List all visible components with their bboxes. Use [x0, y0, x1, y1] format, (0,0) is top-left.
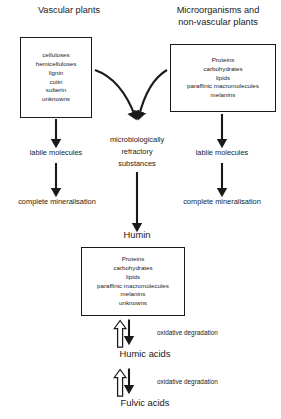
label-humic-acids: Humic acids: [75, 348, 215, 360]
box-item: celluloses: [42, 51, 69, 60]
label-fulvic-acids: Fulvic acids: [75, 397, 215, 409]
box-item: lipids: [126, 273, 140, 282]
label-complete-mineralisation-left: complete mineralisation: [0, 197, 116, 206]
heading-vascular-plants: Vascular plants: [14, 5, 124, 16]
heading-microorganisms-line1: Microorganisms and: [158, 5, 278, 16]
heading-microorganisms-line2: non-vascular plants: [158, 17, 278, 28]
box-item: carbohydrates: [113, 264, 152, 273]
box-microorganisms-constituents: Proteins carbohydrates lipids paraffinic…: [170, 44, 276, 112]
box-item: paraffinic macromolecules: [187, 82, 259, 91]
box-item: cutin: [49, 78, 62, 87]
curved-arrow-vascular-to-refractory: [95, 70, 135, 116]
box-humin-constituents: Proteins carbohydrates lipids paraffinic…: [81, 247, 185, 316]
box-item: melanins: [211, 91, 236, 100]
box-vascular-plants-constituents: celluloses hemicelluloses lignin cutin s…: [20, 37, 92, 118]
hollow-up-arrow-fulvic-to-humic: [114, 370, 126, 397]
humus-formation-diagram: Vascular plants Microorganisms and non-v…: [0, 0, 281, 419]
box-item: unknowns: [119, 299, 147, 308]
hollow-up-arrow-humic-to-humin: [114, 321, 126, 348]
box-item: suberin: [46, 86, 66, 95]
box-item: Proteins: [122, 255, 145, 264]
curved-arrow-microorganisms-to-refractory: [139, 70, 167, 116]
label-humin: Humin: [97, 229, 177, 241]
label-refractory-line2: refractory: [94, 147, 180, 156]
box-item: lignin: [49, 69, 63, 78]
box-item: paraffinic macromolecules: [97, 282, 169, 291]
label-complete-mineralisation-right: complete mineralisation: [163, 197, 281, 206]
box-item: hemicelluloses: [36, 60, 77, 69]
box-item: melanins: [121, 290, 146, 299]
label-labile-molecules-right: labile molecules: [172, 148, 272, 157]
label-refractory-line3: substances: [94, 159, 180, 168]
box-item: carbohydrates: [203, 65, 242, 74]
label-labile-molecules-left: labile molecules: [6, 148, 106, 157]
label-oxidative-degradation-upper: oxidative degradation: [157, 329, 281, 337]
box-item: lipids: [216, 74, 230, 83]
box-item: unknowns: [42, 95, 70, 104]
label-refractory-line1: microbiologically: [94, 135, 180, 144]
box-item: Proteins: [212, 56, 235, 65]
label-oxidative-degradation-lower: oxidative degradation: [157, 378, 281, 386]
